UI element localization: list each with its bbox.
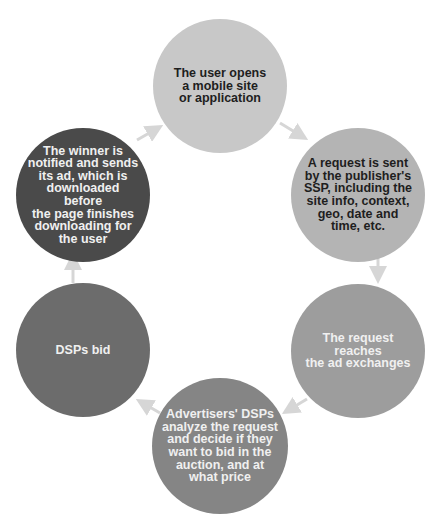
arrow-n4-n5 <box>141 402 160 413</box>
step-user-opens-site: The user opens a mobile site or applicat… <box>153 19 287 153</box>
step-request-sent-by-ssp: A request is sent by the publisher's SSP… <box>291 128 425 262</box>
ad-auction-cycle-diagram: The user opens a mobile site or applicat… <box>0 0 435 526</box>
step-request-sent-by-ssp-label: A request is sent by the publisher's SSP… <box>304 157 412 233</box>
step-dsps-bid-label: DSPs bid <box>56 344 111 357</box>
arrow-n6-n1 <box>137 128 158 140</box>
step-winner-notified: The winner is notified and sends its ad,… <box>16 128 150 262</box>
step-winner-notified-label: The winner is notified and sends its ad,… <box>26 145 140 246</box>
arrow-n3-n4 <box>287 399 307 411</box>
step-request-reaches-exchanges: The request reaches the ad exchanges <box>291 284 425 418</box>
step-request-reaches-exchanges-label: The request reaches the ad exchanges <box>301 332 415 370</box>
step-dsps-analyze-request-label: Advertisers' DSPs analyze the request an… <box>162 408 278 484</box>
step-dsps-analyze-request: Advertisers' DSPs analyze the request an… <box>152 378 288 514</box>
step-user-opens-site-label: The user opens a mobile site or applicat… <box>174 67 266 105</box>
step-dsps-bid: DSPs bid <box>16 283 150 417</box>
arrow-n1-n2 <box>280 123 303 137</box>
